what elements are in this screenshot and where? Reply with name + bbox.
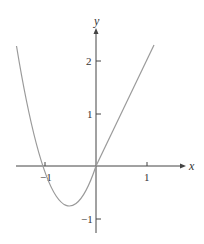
linear-branch [96, 45, 154, 166]
y-tick-label-2: 2 [86, 55, 92, 67]
x-axis-arrow-icon [180, 164, 186, 169]
x-axis-label: x [188, 159, 195, 173]
function-plot: x y −1 1 2 1 −1 [0, 0, 204, 244]
y-axis-label: y [93, 14, 100, 28]
x-tick-label-1: 1 [144, 171, 150, 183]
y-tick-label-1: 1 [87, 108, 93, 120]
parabola-branch [17, 46, 97, 206]
y-axis-arrow-icon [94, 28, 99, 34]
y-tick-label-neg1: −1 [81, 213, 93, 225]
